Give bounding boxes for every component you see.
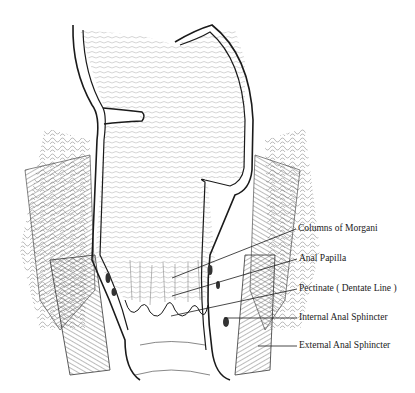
levator-muscle-left xyxy=(25,155,110,375)
label-columns-of-morgani: Columns of Morgani xyxy=(298,224,378,234)
label-external-anal-sphincter: External Anal Sphincter xyxy=(299,341,390,351)
label-internal-anal-sphincter: Internal Anal Sphincter xyxy=(299,313,388,323)
anatomy-diagram xyxy=(0,0,415,393)
label-anal-papilla: Anal Papilla xyxy=(299,254,346,264)
label-pectinate-line: Pectinate ( Dentate Line ) xyxy=(299,284,397,294)
anal-canal xyxy=(135,342,210,376)
rectal-lumen xyxy=(80,30,245,300)
